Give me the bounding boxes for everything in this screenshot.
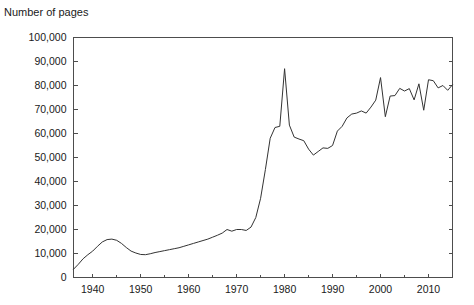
y-axis-tick-label: 90,000 <box>34 55 66 67</box>
y-axis-tick-label: 20,000 <box>34 223 66 235</box>
y-axis-tick-label: 10,000 <box>34 247 66 259</box>
y-axis: 010,00020,00030,00040,00050,00060,00070,… <box>29 31 453 283</box>
x-axis-tick-label: 2000 <box>369 283 393 295</box>
y-axis-tick-label: 40,000 <box>34 175 66 187</box>
data-series-line <box>74 69 453 270</box>
x-axis-tick-label: 1980 <box>273 283 297 295</box>
y-axis-tick-label: 80,000 <box>34 79 66 91</box>
y-axis-tick-label: 70,000 <box>34 103 66 115</box>
plot-frame <box>74 38 453 278</box>
y-axis-tick-label: 100,000 <box>29 31 67 43</box>
y-axis-tick-label: 60,000 <box>34 127 66 139</box>
x-axis-tick-label: 1970 <box>225 283 249 295</box>
plot-area: 010,00020,00030,00040,00050,00060,00070,… <box>0 0 474 305</box>
y-axis-tick-label: 30,000 <box>34 199 66 211</box>
x-axis-tick-label: 1950 <box>129 283 153 295</box>
series-path <box>74 69 453 270</box>
y-axis-tick-label: 0 <box>61 271 67 283</box>
y-axis-tick-label: 50,000 <box>34 151 66 163</box>
line-chart-figure: Number of pages 010,00020,00030,00040,00… <box>0 0 474 305</box>
x-axis: 19401950196019701980199020002010 <box>81 274 452 295</box>
x-axis-tick-label: 2010 <box>417 283 441 295</box>
x-axis-tick-label: 1940 <box>81 283 105 295</box>
x-axis-tick-label: 1990 <box>321 283 345 295</box>
x-axis-tick-label: 1960 <box>177 283 201 295</box>
